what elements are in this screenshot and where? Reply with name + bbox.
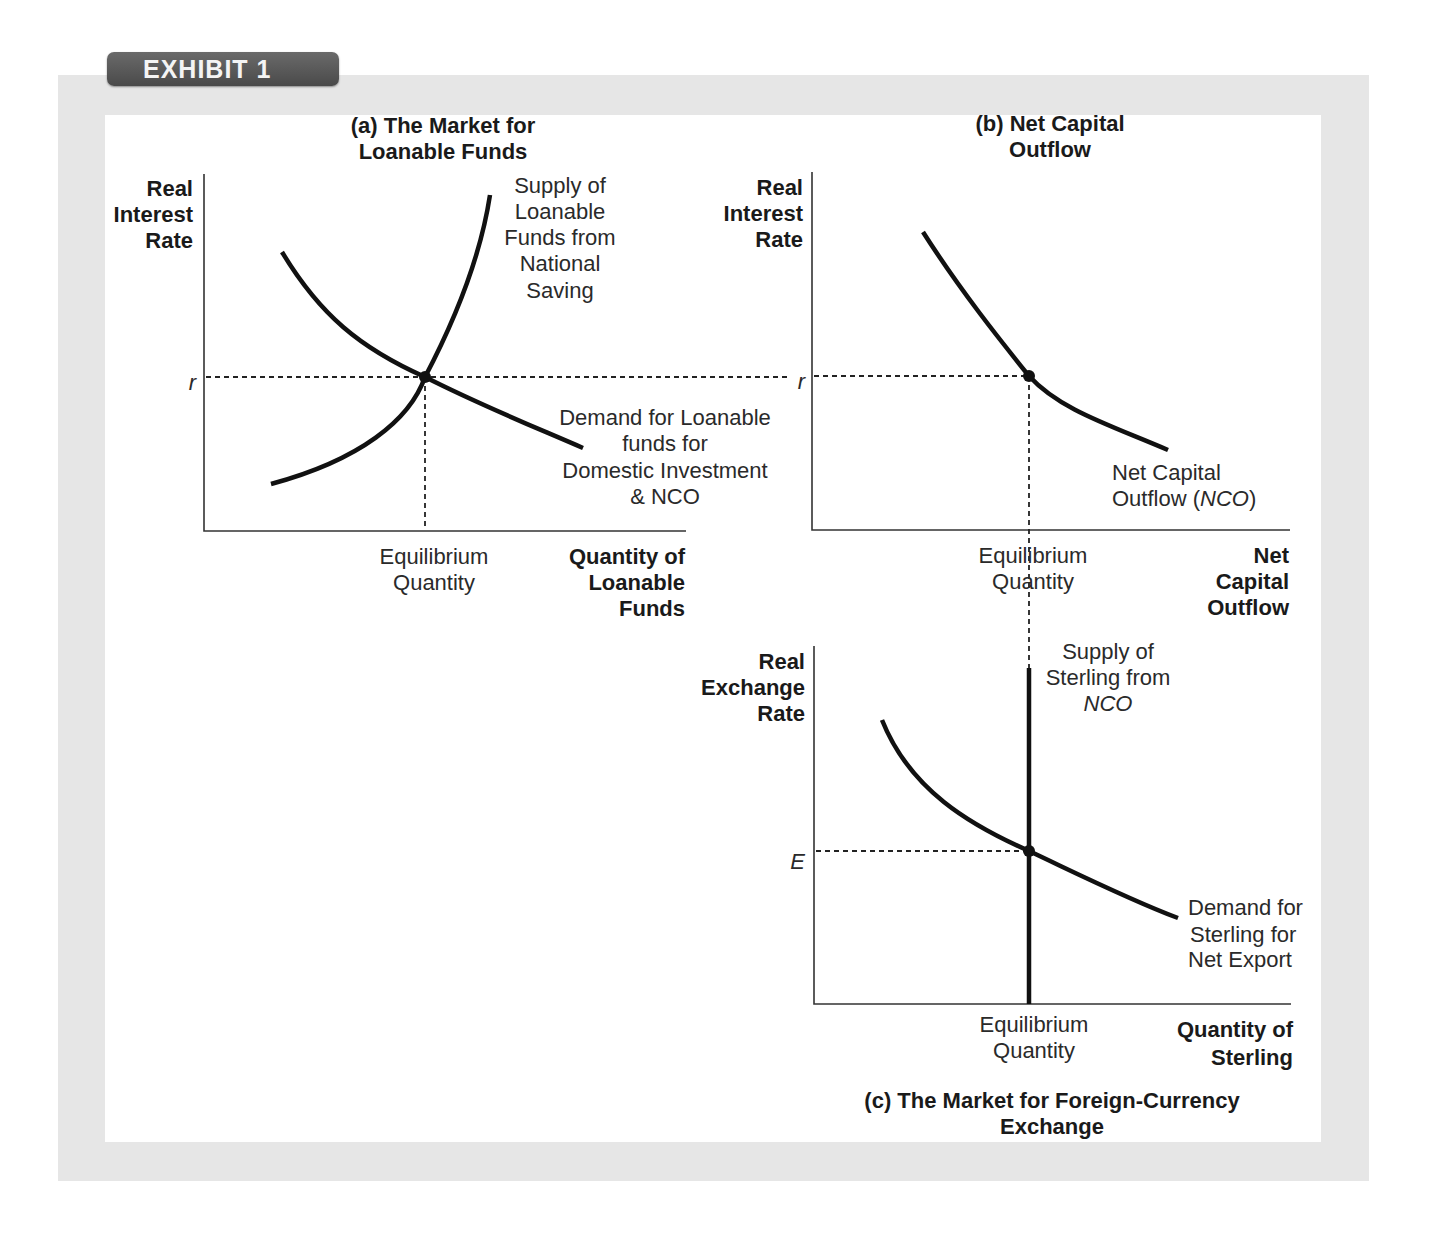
panel-c-demand-label-3: Net Export — [1188, 947, 1292, 972]
panel-a-demand-label-3: Domestic Investment — [562, 458, 767, 483]
panel-b-x-tick-2: Quantity — [992, 569, 1074, 594]
panel-a-supply-label-3: Funds from — [504, 225, 615, 250]
panel-c-e-tick: E — [790, 849, 805, 874]
panel-c-y-label-2: Exchange — [701, 675, 805, 700]
panel-b-r-tick: r — [798, 369, 807, 394]
panel-c-demand-label-1: Demand for — [1188, 895, 1303, 920]
panel-c-equilibrium-point — [1023, 845, 1035, 857]
panel-b-title-line2: Outflow — [1009, 137, 1092, 162]
panel-a: (a) The Market for Loanable Funds Real I… — [114, 113, 790, 621]
panel-b-y-label-1: Real — [757, 175, 803, 200]
panel-c-x-tick-2: Quantity — [993, 1038, 1075, 1063]
panel-b-title-line1: (b) Net Capital — [975, 111, 1124, 136]
panel-c-supply-label-2: Sterling from — [1046, 665, 1171, 690]
panel-c-title-line1: (c) The Market for Foreign-Currency — [864, 1088, 1240, 1113]
panel-a-equilibrium-point — [419, 371, 431, 383]
panel-b-x-label-3: Outflow — [1207, 595, 1290, 620]
panel-a-x-tick-1: Equilibrium — [380, 544, 489, 569]
panel-a-demand-label-4: & NCO — [630, 484, 700, 509]
panel-a-x-label-3: Funds — [619, 596, 685, 621]
panel-c: Real Exchange Rate E Supply of Sterling … — [701, 639, 1303, 1139]
panel-c-supply-label-3: NCO — [1084, 691, 1133, 716]
panel-a-x-tick-2: Quantity — [393, 570, 475, 595]
panel-b-x-tick-1: Equilibrium — [979, 543, 1088, 568]
panel-b-curve-label-1: Net Capital — [1112, 460, 1221, 485]
panel-a-demand-label-1: Demand for Loanable — [559, 405, 771, 430]
panel-a-y-label-1: Real — [147, 176, 193, 201]
panel-b-x-label-2: Capital — [1216, 569, 1289, 594]
panel-c-y-label-3: Rate — [757, 701, 805, 726]
panel-a-y-label-3: Rate — [145, 228, 193, 253]
panel-a-r-tick: r — [189, 370, 198, 395]
panel-c-title-line2: Exchange — [1000, 1114, 1104, 1139]
panel-a-y-label-2: Interest — [114, 202, 194, 227]
panel-b-y-label-3: Rate — [755, 227, 803, 252]
panel-c-demand-label-2: Sterling for — [1190, 922, 1296, 947]
panel-b-equilibrium-point — [1023, 370, 1035, 382]
panel-a-supply-label-4: National — [520, 251, 601, 276]
panel-c-x-label-2: Sterling — [1211, 1045, 1293, 1070]
panel-a-supply-label-5: Saving — [526, 278, 593, 303]
panel-a-supply-label-1: Supply of — [514, 173, 607, 198]
panel-a-x-label-2: Loanable — [588, 570, 685, 595]
panel-c-supply-label-1: Supply of — [1062, 639, 1155, 664]
panel-c-x-tick-1: Equilibrium — [980, 1012, 1089, 1037]
panel-b-x-label-1: Net — [1254, 543, 1290, 568]
panel-b-y-label-2: Interest — [724, 201, 804, 226]
panel-a-supply-label-2: Loanable — [515, 199, 606, 224]
panel-b-curve-label-2: Outflow (NCO) — [1112, 486, 1256, 511]
panel-a-demand-label-2: funds for — [622, 431, 708, 456]
panel-a-title-line2: Loanable Funds — [359, 139, 528, 164]
exhibit-diagram: (a) The Market for Loanable Funds Real I… — [0, 0, 1429, 1239]
panel-a-x-label-1: Quantity of — [569, 544, 686, 569]
panel-c-x-label-1: Quantity of — [1177, 1017, 1294, 1042]
panel-b-nco-curve — [923, 232, 1168, 450]
panel-a-title-line1: (a) The Market for — [351, 113, 536, 138]
panel-b: (b) Net Capital Outflow Real Interest Ra… — [724, 111, 1290, 668]
panel-a-supply-curve — [271, 195, 490, 484]
panel-c-y-label-1: Real — [759, 649, 805, 674]
